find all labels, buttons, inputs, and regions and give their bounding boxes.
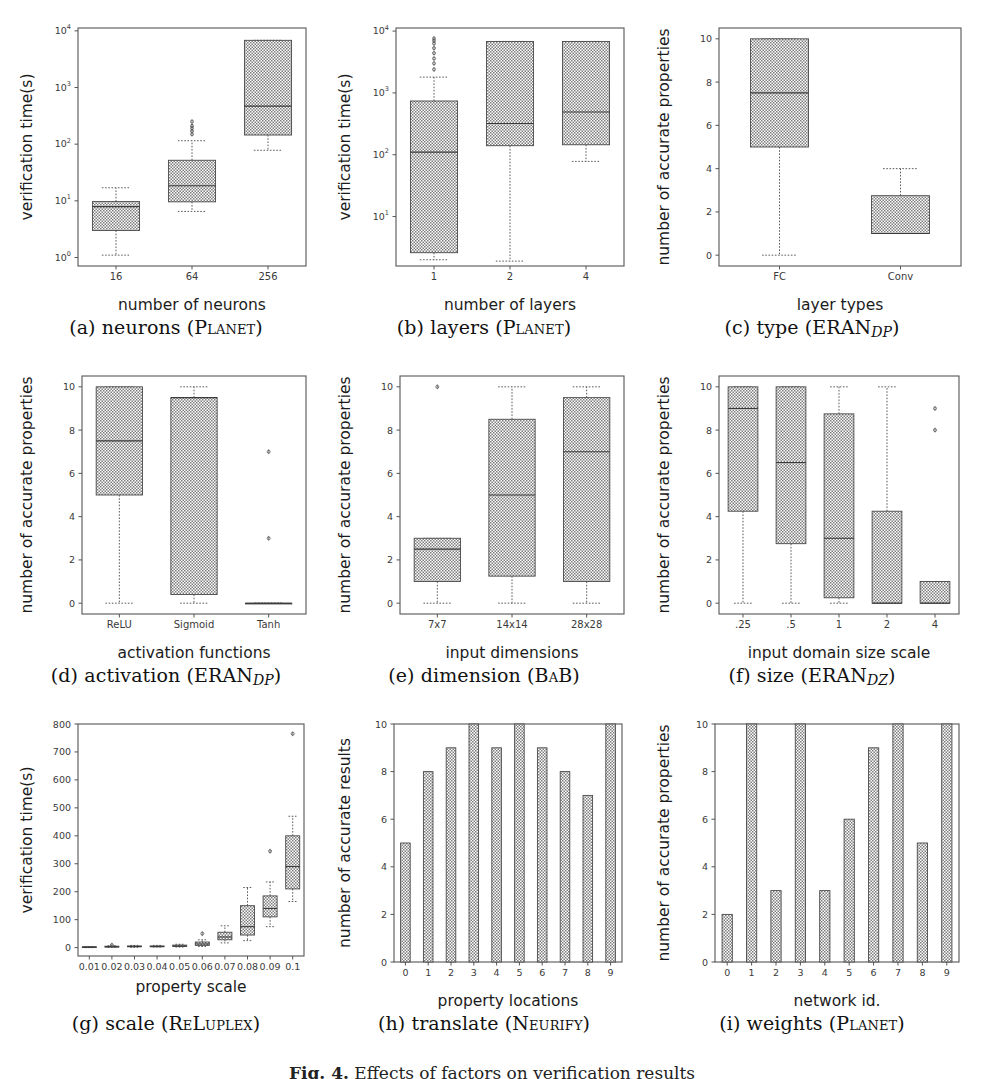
subcaption-b-name: layers	[430, 316, 489, 338]
svg-text:.25: .25	[735, 619, 751, 630]
plot-c: 0246810FCConvlayer typesnumber of accura…	[644, 6, 980, 318]
subcaption-c-name: type	[756, 316, 798, 338]
svg-text:number of accurate properties: number of accurate properties	[655, 28, 673, 265]
svg-text:6: 6	[871, 967, 877, 978]
svg-text:7: 7	[895, 967, 901, 978]
svg-text:1: 1	[425, 967, 431, 978]
svg-text:16: 16	[110, 271, 123, 282]
svg-text:0: 0	[69, 598, 75, 609]
subcaption-g-letter: (g)	[72, 1012, 99, 1034]
svg-text:2: 2	[387, 554, 393, 565]
subcaption-g-name: scale	[105, 1012, 155, 1034]
svg-text:10: 10	[375, 719, 387, 730]
subcaption-a-name: neurons	[102, 316, 181, 338]
panel-d: 0246810ReLUSigmoidTanhactivation functio…	[8, 354, 324, 702]
svg-text:activation functions: activation functions	[117, 644, 270, 662]
svg-text:7x7: 7x7	[428, 619, 447, 630]
svg-text:number of accurate properties: number of accurate properties	[18, 376, 36, 613]
svg-text:500: 500	[53, 802, 71, 813]
panel-grid: 1001011021031041664256number of neuronsv…	[8, 6, 976, 1050]
svg-text:10: 10	[696, 719, 708, 730]
svg-text:9: 9	[608, 967, 614, 978]
svg-text:2: 2	[884, 619, 890, 630]
subcaption-c-letter: (c)	[725, 316, 751, 338]
svg-text:0: 0	[381, 957, 387, 968]
svg-text:verification time(s): verification time(s)	[18, 74, 36, 221]
svg-text:1: 1	[836, 619, 842, 630]
subcaption-i-tool: Planet	[836, 1012, 897, 1034]
svg-text:103: 103	[373, 85, 389, 98]
svg-text:2: 2	[381, 909, 387, 920]
subcaption-f-tool: ERAN	[808, 664, 867, 686]
svg-text:0: 0	[706, 598, 712, 609]
svg-text:0.08: 0.08	[237, 961, 258, 972]
svg-text:102: 102	[55, 137, 71, 150]
plot-e: 02468107x714x1428x28input dimensionsnumb…	[326, 354, 642, 666]
plot-g: 01002003004005006007008000.010.020.030.0…	[8, 702, 324, 1014]
subcaption-c-subscript: DP	[871, 324, 892, 340]
svg-text:104: 104	[373, 24, 389, 37]
svg-text:4: 4	[494, 967, 500, 978]
svg-text:number of accurate properties: number of accurate properties	[655, 724, 673, 961]
svg-text:layer types: layer types	[797, 296, 884, 314]
svg-text:0.1: 0.1	[285, 961, 300, 972]
svg-text:0.02: 0.02	[101, 961, 122, 972]
figure-caption: Fig. 4. Effects of factors on verificati…	[0, 1063, 984, 1079]
svg-text:property scale: property scale	[135, 978, 246, 996]
svg-text:300: 300	[53, 858, 71, 869]
panel-f: 0246810.25.5124input domain size scalenu…	[644, 354, 980, 702]
subcaption-f-letter: (f)	[729, 664, 751, 686]
svg-text:1: 1	[431, 271, 437, 282]
subcaption-i: (i) weights (Planet)	[719, 1012, 905, 1034]
svg-text:7: 7	[562, 967, 568, 978]
svg-text:6: 6	[706, 468, 712, 479]
svg-text:5: 5	[516, 967, 522, 978]
plot-i: 02468100123456789network id.number of ac…	[644, 702, 980, 1014]
svg-text:8: 8	[706, 425, 712, 436]
svg-text:input dimensions: input dimensions	[445, 644, 578, 662]
svg-text:8: 8	[381, 766, 387, 777]
subcaption-e-name: dimension	[421, 664, 521, 686]
svg-text:101: 101	[373, 209, 389, 222]
svg-text:4: 4	[706, 163, 712, 174]
subcaption-i-letter: (i)	[719, 1012, 740, 1034]
svg-text:FC: FC	[773, 271, 786, 282]
svg-text:0: 0	[724, 967, 730, 978]
svg-text:64: 64	[186, 271, 199, 282]
svg-text:4: 4	[706, 511, 712, 522]
panel-h: 02468100123456789property locationsnumbe…	[326, 702, 642, 1050]
subcaption-e-tool: BaB	[535, 664, 573, 686]
svg-text:10: 10	[700, 381, 712, 392]
subcaption-a: (a) neurons (Planet)	[69, 316, 263, 338]
subcaption-f-subscript: DZ	[867, 672, 888, 688]
svg-text:6: 6	[387, 468, 393, 479]
subcaption-d-name: activation	[84, 664, 180, 686]
svg-text:600: 600	[53, 774, 71, 785]
svg-text:property locations: property locations	[438, 992, 579, 1010]
svg-text:8: 8	[702, 766, 708, 777]
panel-b: 101102103104124number of layersverificat…	[326, 6, 642, 354]
svg-text:800: 800	[53, 719, 71, 730]
svg-text:102: 102	[373, 147, 389, 160]
svg-text:0: 0	[702, 957, 708, 968]
svg-text:verification time(s): verification time(s)	[336, 74, 354, 221]
plot-f: 0246810.25.5124input domain size scalenu…	[644, 354, 980, 666]
svg-text:4: 4	[387, 511, 393, 522]
svg-text:4: 4	[822, 967, 828, 978]
svg-text:200: 200	[53, 886, 71, 897]
svg-text:3: 3	[471, 967, 477, 978]
subcaption-e-letter: (e)	[388, 664, 414, 686]
svg-text:28x28: 28x28	[571, 619, 602, 630]
svg-text:5: 5	[846, 967, 852, 978]
svg-text:103: 103	[55, 80, 71, 93]
subcaption-g: (g) scale (ReLuplex)	[72, 1012, 260, 1034]
svg-text:0: 0	[402, 967, 408, 978]
panel-i: 02468100123456789network id.number of ac…	[644, 702, 980, 1050]
subcaption-d-subscript: DP	[253, 672, 274, 688]
svg-text:3: 3	[797, 967, 803, 978]
svg-text:104: 104	[55, 23, 71, 36]
svg-text:2: 2	[773, 967, 779, 978]
svg-text:6: 6	[706, 120, 712, 131]
subcaption-b-tool: Planet	[503, 316, 564, 338]
subcaption-h: (h) translate (Neurify)	[378, 1012, 590, 1034]
